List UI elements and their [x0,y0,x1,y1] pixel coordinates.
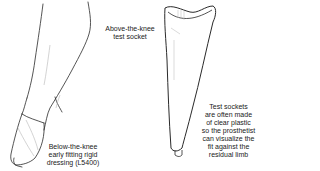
label-line: Below-the-knee [40,143,106,151]
label-line: residual limb [191,151,266,159]
label-line: so the prosthetist [191,127,266,135]
label-line: dressing (L5400) [40,159,106,167]
label-line: fit against the [191,143,266,151]
label-line: Test sockets [191,103,266,111]
above-knee-socket-label: Above-the-knee test socket [97,25,163,41]
test-socket-note: Test sockets are often made of clear pla… [191,103,266,159]
below-knee-dressing-label: Below-the-knee early fitting rigid dress… [40,143,106,167]
label-line: Above-the-knee [97,25,163,33]
label-line: can visualize the [191,135,266,143]
label-line: test socket [97,33,163,41]
label-line: early fitting rigid [40,151,106,159]
label-line: of clear plastic [191,119,266,127]
label-line: are often made [191,111,266,119]
